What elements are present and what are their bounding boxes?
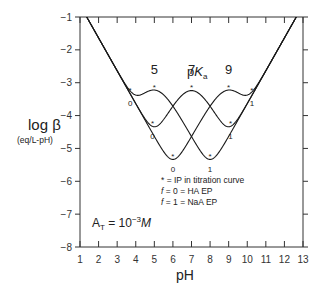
x-tick-label: 7 — [189, 254, 195, 265]
x-tick-label: 1 — [77, 254, 83, 265]
y-tick-label: −3 — [61, 77, 73, 88]
y-tick-label: −1 — [61, 12, 73, 23]
ip-marker-icon: * — [209, 152, 212, 161]
ip-marker-icon: * — [227, 83, 230, 92]
y-tick-label: −6 — [61, 176, 73, 187]
x-tick-label: 9 — [226, 254, 232, 265]
pka-label-7: 7 — [188, 62, 195, 77]
f-value-label: 1 — [228, 132, 233, 141]
total-concentration-annotation: AT = 10−3M — [92, 215, 151, 232]
x-tick-label: 4 — [133, 254, 139, 265]
x-tick-label: 3 — [114, 254, 120, 265]
ip-marker-icon: * — [153, 83, 156, 92]
legend-f0: f = 0 = HA EP — [161, 186, 213, 196]
plot-frame — [80, 17, 303, 247]
f-value-label: 1 — [250, 99, 255, 108]
ip-marker-icon: * — [171, 152, 174, 161]
buffer-capacity-chart: 12345678910111213 −1−2−3−4−5−6−7−8 *0**1… — [0, 0, 323, 304]
y-axis-units: (eq/L-pH) — [17, 135, 53, 145]
ip-marker-icon: * — [229, 119, 232, 128]
y-axis-title: log β — [28, 116, 61, 133]
f-value-label: 0 — [128, 99, 133, 108]
y-tick-label: −2 — [61, 44, 73, 55]
ip-marker-icon: * — [151, 119, 154, 128]
x-tick-label: 5 — [152, 254, 158, 265]
legend: * = IP in titration curve f = 0 = HA EP … — [161, 175, 245, 207]
x-axis-title: pH — [176, 267, 194, 283]
x-tick-label: 12 — [279, 254, 291, 265]
legend-f1: f = 1 = NaA EP — [161, 197, 218, 207]
x-tick-label: 6 — [170, 254, 176, 265]
curve-markers: *0**1*0**1**0*1 — [128, 83, 255, 174]
y-tick-label: −4 — [61, 110, 73, 121]
f-value-label: 0 — [171, 165, 176, 174]
y-tick-label: −5 — [61, 143, 73, 154]
y-tick-label: −8 — [61, 242, 73, 253]
pka-labels: 975 — [151, 62, 233, 77]
legend-ip: * = IP in titration curve — [161, 175, 245, 185]
ip-marker-icon: * — [129, 86, 132, 95]
ip-marker-icon: * — [190, 83, 193, 92]
f-value-label: 1 — [208, 165, 213, 174]
x-tick-label: 13 — [297, 254, 309, 265]
pka-label-9: 9 — [225, 62, 232, 77]
y-tick-label: −7 — [61, 209, 73, 220]
pka-label-5: 5 — [151, 62, 158, 77]
x-tick-label: 10 — [242, 254, 254, 265]
x-tick-label: 11 — [261, 254, 272, 265]
x-tick-label: 8 — [207, 254, 213, 265]
ip-marker-icon: * — [250, 86, 253, 95]
x-tick-label: 2 — [96, 254, 102, 265]
f-value-label: 0 — [150, 132, 155, 141]
